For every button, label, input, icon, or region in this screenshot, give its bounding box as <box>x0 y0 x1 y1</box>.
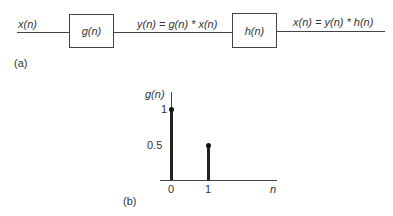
input-line <box>17 32 69 33</box>
stem-n1-marker <box>206 143 211 148</box>
h-block: h(n) <box>232 13 277 48</box>
input-signal-label: x(n) <box>18 18 37 30</box>
y-axis-label: g(n) <box>145 88 165 100</box>
x-axis <box>160 180 277 181</box>
x-axis-label: n <box>270 183 276 195</box>
stem-n1 <box>207 145 210 180</box>
part-b-label: (b) <box>123 195 136 207</box>
g-block-label: g(n) <box>82 25 102 37</box>
output-line <box>277 31 385 32</box>
x-tick-0: 0 <box>168 183 174 195</box>
intermediate-line <box>114 32 232 33</box>
output-signal-label: x(n) = y(n) * h(n) <box>293 16 373 28</box>
g-block: g(n) <box>69 14 114 48</box>
stem-n0 <box>170 109 173 180</box>
y-tick-0.5: 0.5 <box>147 139 162 151</box>
h-block-label: h(n) <box>245 25 265 37</box>
intermediate-signal-label: y(n) = g(n) * x(n) <box>137 18 217 30</box>
part-a-label: (a) <box>14 57 27 69</box>
y-tick-1: 1 <box>161 103 167 115</box>
x-tick-1: 1 <box>205 183 211 195</box>
stem-n0-marker <box>169 107 174 112</box>
